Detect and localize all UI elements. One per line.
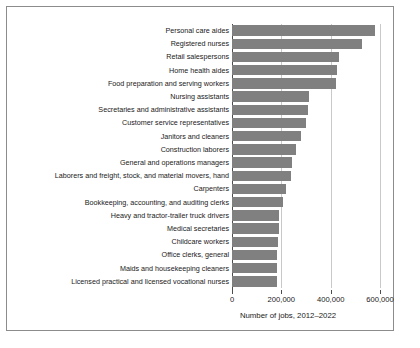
chart-figure: Personal care aidesRegistered nursesReta… [0,0,420,348]
category-label: Home health aides [169,64,229,77]
category-label: Registered nurses [171,37,229,50]
plot-area: Personal care aidesRegistered nursesReta… [232,24,380,288]
bar-row: General and operations managers [232,156,380,169]
bar [232,157,292,167]
category-label: Food preparation and serving workers [108,77,229,90]
bar-row: Carpenters [232,182,380,195]
bar [232,263,277,273]
category-label: Carpenters [193,182,229,195]
bar-row: Personal care aides [232,24,380,37]
tick-mark [232,290,233,294]
category-label: Retail salespersons [166,50,229,63]
category-label: Laborers and freight, stock, and materia… [55,169,229,182]
bar [232,131,301,141]
bar [232,197,283,207]
bar-row: Laborers and freight, stock, and materia… [232,169,380,182]
category-label: Childcare workers [171,235,229,248]
bar [232,25,375,35]
category-label: Heavy and tractor-trailer truck drivers [111,209,229,222]
bar-row: Medical secretaries [232,222,380,235]
bar-row: Nursing assistants [232,90,380,103]
category-label: General and operations managers [120,156,229,169]
category-label: Personal care aides [165,24,229,37]
bar-row: Secretaries and administrative assistant… [232,103,380,116]
bar [232,105,308,115]
category-label: Bookkeeping, accounting, and auditing cl… [85,196,229,209]
bar [232,65,337,75]
bar [232,276,277,286]
category-label: Licensed practical and licensed vocation… [71,275,229,288]
bar [232,118,306,128]
tick-mark [331,290,332,294]
bar [232,91,309,101]
category-label: Office clerks, general [162,248,229,261]
x-tick-label: 400,000 [317,295,344,304]
gridline [380,24,381,288]
category-label: Maids and housekeeping cleaners [120,262,229,275]
tick-mark [380,290,381,294]
bar [232,144,296,154]
bar [232,210,279,220]
bar-row: Construction laborers [232,143,380,156]
bar [232,78,336,88]
bar [232,39,362,49]
category-label: Medical secretaries [167,222,229,235]
bar-row: Food preparation and serving workers [232,77,380,90]
category-label: Secretaries and administrative assistant… [98,103,229,116]
x-tick-label: 0 [230,295,234,304]
x-tick-label: 600,000 [366,295,393,304]
bar [232,237,278,247]
bar-row: Retail salespersons [232,50,380,63]
bar [232,184,286,194]
category-label: Construction laborers [161,143,229,156]
bar-row: Home health aides [232,64,380,77]
category-label: Nursing assistants [170,90,229,103]
bar [232,223,279,233]
bar-row: Childcare workers [232,235,380,248]
tick-mark [281,290,282,294]
x-tick-label: 200,000 [268,295,295,304]
bar-row: Janitors and cleaners [232,130,380,143]
bar-row: Licensed practical and licensed vocation… [232,275,380,288]
bar-row: Office clerks, general [232,248,380,261]
bar-row: Maids and housekeeping cleaners [232,262,380,275]
bar [232,52,339,62]
bar [232,250,277,260]
bar [232,171,291,181]
x-axis-label: Number of jobs, 2012–2022 [214,311,362,320]
category-label: Janitors and cleaners [161,130,229,143]
bar-row: Heavy and tractor-trailer truck drivers [232,209,380,222]
bar-row: Customer service representatives [232,116,380,129]
category-label: Customer service representatives [122,116,229,129]
bar-row: Registered nurses [232,37,380,50]
bar-row: Bookkeeping, accounting, and auditing cl… [232,196,380,209]
